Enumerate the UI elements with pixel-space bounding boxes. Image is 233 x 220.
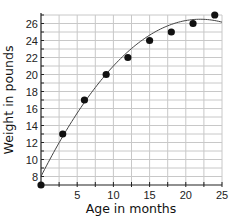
data-point	[103, 71, 110, 78]
data-point	[211, 11, 218, 18]
x-tick-label: 15	[143, 189, 155, 201]
x-axis-title: Age in months	[86, 201, 177, 216]
x-tick-label: 10	[107, 189, 119, 201]
y-tick-label: 22	[26, 52, 38, 64]
y-tick-label: 12	[26, 137, 38, 149]
data-point	[146, 37, 153, 44]
y-tick-label: 14	[26, 120, 38, 132]
data-point	[37, 181, 44, 188]
y-tick-label: 18	[26, 86, 38, 98]
y-axis-title: Weight in pounds	[1, 46, 16, 155]
y-tick-label: 16	[26, 103, 38, 115]
grid	[41, 15, 222, 185]
y-tick-label: 10	[26, 154, 38, 166]
y-tick-label: 20	[26, 69, 38, 81]
weight-vs-age-chart: 5101520258101214161820222426 Age in mont…	[0, 0, 233, 220]
data-point	[189, 20, 196, 27]
x-tick-label: 20	[180, 189, 192, 201]
data-point	[59, 130, 66, 137]
data-point	[124, 54, 131, 61]
x-tick-label: 25	[216, 189, 228, 201]
x-tick-label: 5	[74, 189, 80, 201]
data-point	[168, 28, 175, 35]
y-tick-label: 8	[32, 171, 38, 183]
y-tick-label: 24	[26, 35, 38, 47]
y-tick-label: 26	[26, 18, 38, 30]
data-point	[81, 96, 88, 103]
tick-labels: 5101520258101214161820222426	[26, 18, 228, 202]
